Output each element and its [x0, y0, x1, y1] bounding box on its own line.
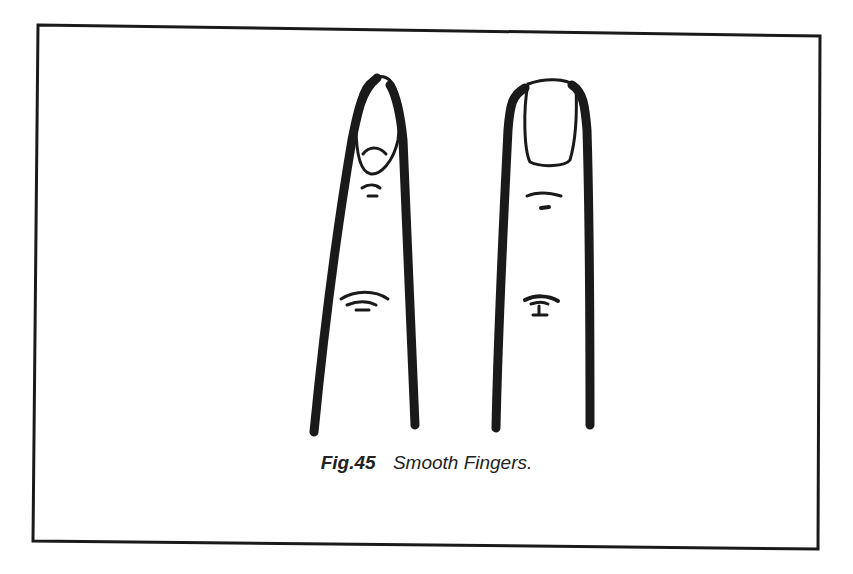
figure-label: Fig.45 [321, 452, 376, 473]
figure-title: Smooth Fingers. [393, 452, 532, 473]
figure-caption: Fig.45 Smooth Fingers. [0, 452, 853, 474]
figure-panel: Fig.45 Smooth Fingers. [0, 0, 853, 574]
right-finger-drawing [496, 80, 590, 428]
left-finger-drawing [314, 77, 415, 432]
figure-illustration [0, 0, 853, 574]
